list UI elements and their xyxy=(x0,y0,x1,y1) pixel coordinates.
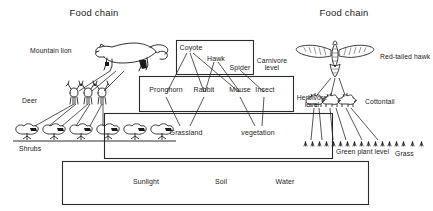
cottontail-label: Cottontail xyxy=(365,98,395,105)
deer-icon xyxy=(66,81,82,104)
grass-tuft-icon xyxy=(353,142,356,146)
carnivore-member-coyote: Coyote xyxy=(180,44,203,51)
grass-tuft-icon xyxy=(374,142,377,146)
abiotic-member-soil: Soil xyxy=(215,178,227,185)
left-food-chain-title: Food chain xyxy=(69,8,118,18)
grass-tuft-icon xyxy=(420,142,423,146)
green-plant-level-box xyxy=(105,114,333,159)
grass-tuft-icon xyxy=(325,142,328,146)
shrub-icon xyxy=(97,124,119,140)
herbivore-member-pronghorn: Pronghorn xyxy=(149,86,183,93)
right-food-chain-title: Food chain xyxy=(319,8,368,18)
shrub-icon xyxy=(16,124,38,140)
food-chain-pyramid-diagram: Food chain Food chain Mountain lion Deer… xyxy=(0,0,433,211)
cottontail-to-grass-rays xyxy=(311,108,378,140)
grass-tuft-icon xyxy=(318,142,321,146)
shrub-group xyxy=(13,124,176,141)
grass-tuft-icon xyxy=(304,142,307,146)
abiotic-member-sunlight: Sunlight xyxy=(133,178,159,185)
herbivore-level-box xyxy=(140,77,294,112)
carnivore-member-hawk: Hawk xyxy=(207,55,225,62)
hawk-to-cottontail-rays xyxy=(317,78,345,95)
carnivore-level-label-line2: level xyxy=(265,64,279,71)
deer-label: Deer xyxy=(22,97,37,104)
herbivore-member-mouse: Mouse xyxy=(229,86,251,93)
carnivore-level-label: Carnivore level xyxy=(257,57,287,71)
carnivore-level-label-line1: Carnivore xyxy=(257,57,287,64)
grass-tuft-icon xyxy=(388,142,391,146)
grass-tuft-icon xyxy=(411,142,414,146)
grass-tuft-icon xyxy=(402,142,405,146)
grass-label: Grass xyxy=(395,150,414,157)
grass-tuft-icon xyxy=(339,142,342,146)
grass-tuft-icon xyxy=(360,142,363,146)
herbivore-member-insect: Insect xyxy=(255,86,274,93)
shrub-icon xyxy=(124,124,146,140)
deer-icon xyxy=(94,81,110,104)
herbivore-member-rabbit: Rabbit xyxy=(194,86,215,93)
grass-tuft-icon xyxy=(346,142,349,146)
mountain-lion-icon xyxy=(96,43,168,71)
shrub-icon xyxy=(43,124,65,140)
carnivore-member-spider: Spider xyxy=(230,64,251,71)
grass-tuft-icon xyxy=(367,142,370,146)
grass-tuft-icon xyxy=(311,142,314,146)
red-tailed-hawk-label: Red-tailed hawk xyxy=(380,53,430,60)
grass-tuft-icon xyxy=(381,142,384,146)
green-plant-level-label: Green plant level xyxy=(336,148,389,155)
green-plant-member-vegetation: vegetation xyxy=(241,129,274,136)
shrubs-label: Shrubs xyxy=(19,145,41,152)
mountain-lion-label: Mountain lion xyxy=(30,47,72,54)
hawk-icon xyxy=(296,41,374,77)
herbivore-level-label-line2: level xyxy=(305,101,319,108)
deer-to-shrub-rays xyxy=(35,104,103,126)
herbivore-level-label-line1: Herbivore xyxy=(297,94,327,101)
shrub-icon xyxy=(70,124,92,140)
grass-tuft-icon xyxy=(395,142,398,146)
deer-icon xyxy=(80,81,96,104)
grass-group xyxy=(304,142,423,146)
green-plant-member-grassland: Grassland xyxy=(170,129,203,136)
herbivore-level-label: Herbivore level xyxy=(297,94,327,108)
deer-group xyxy=(66,81,110,104)
abiotic-member-water: Water xyxy=(276,178,295,185)
